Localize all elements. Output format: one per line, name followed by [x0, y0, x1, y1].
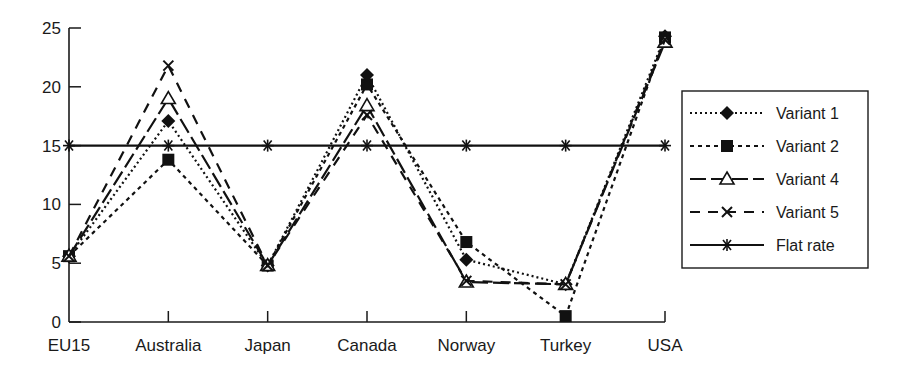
- y-tick-label: 0: [52, 313, 61, 332]
- y-tick-label: 15: [42, 137, 61, 156]
- asterisk-marker-icon: [721, 239, 733, 251]
- x-tick-label: Japan: [245, 336, 291, 355]
- legend-label: Variant 1: [776, 105, 839, 122]
- x-marker-icon: [163, 61, 173, 71]
- diamond-marker-icon: [459, 253, 473, 267]
- triangle-marker-icon: [360, 99, 374, 111]
- line-chart: 0510152025EU15AustraliaJapanCanadaNorway…: [0, 0, 900, 377]
- y-tick-label: 25: [42, 19, 61, 38]
- asterisk-marker-icon: [162, 140, 174, 152]
- square-marker-icon: [721, 140, 733, 152]
- legend-label: Variant 2: [776, 138, 839, 155]
- legend-box: [682, 91, 868, 268]
- y-tick-label: 5: [52, 254, 61, 273]
- asterisk-marker-icon: [361, 140, 373, 152]
- asterisk-marker-icon: [460, 140, 472, 152]
- y-tick-label: 20: [42, 78, 61, 97]
- series-group: [62, 29, 672, 322]
- asterisk-marker-icon: [63, 140, 75, 152]
- series-flat-rate: [63, 140, 671, 152]
- asterisk-marker-icon: [659, 140, 671, 152]
- x-marker-icon: [362, 110, 372, 120]
- legend-label: Variant 5: [776, 204, 839, 221]
- square-marker-icon: [560, 310, 572, 322]
- legend-label: Flat rate: [776, 237, 835, 254]
- square-marker-icon: [162, 154, 174, 166]
- x-tick-label: Turkey: [540, 336, 592, 355]
- x-tick-label: Norway: [438, 336, 496, 355]
- asterisk-marker-icon: [262, 140, 274, 152]
- y-tick-label: 10: [42, 195, 61, 214]
- x-tick-label: USA: [648, 336, 684, 355]
- x-tick-label: Australia: [135, 336, 202, 355]
- axes: 0510152025EU15AustraliaJapanCanadaNorway…: [42, 19, 683, 355]
- square-marker-icon: [460, 236, 472, 248]
- series-variant-1: [62, 29, 672, 291]
- triangle-marker-icon: [161, 92, 175, 104]
- legend-label: Variant 4: [776, 171, 839, 188]
- x-tick-label: EU15: [48, 336, 91, 355]
- asterisk-marker-icon: [560, 140, 572, 152]
- x-tick-label: Canada: [337, 336, 397, 355]
- legend: Variant 1Variant 2Variant 4Variant 5Flat…: [682, 91, 868, 268]
